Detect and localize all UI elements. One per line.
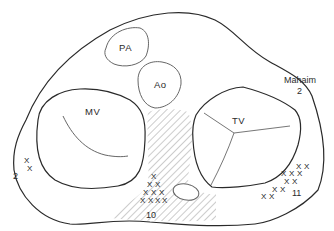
- accessory-pathway-marker: X: [304, 163, 309, 171]
- accessory-pathway-marker: X: [297, 170, 302, 178]
- accessory-pathway-marker: X: [140, 197, 145, 205]
- ao-label: Ao: [154, 80, 167, 90]
- pa-label: PA: [119, 43, 132, 53]
- septal-count: 10: [146, 211, 156, 220]
- mv-label: MV: [85, 107, 100, 117]
- mahaim-count: 2: [297, 87, 302, 96]
- right-free-wall-count: 11: [292, 189, 301, 198]
- tv-label: TV: [232, 116, 245, 126]
- accessory-pathway-marker: X: [269, 193, 274, 201]
- mv-leaflet-line: [63, 116, 128, 157]
- accessory-pathway-marker: X: [280, 186, 285, 194]
- accessory-pathway-marker: X: [148, 197, 153, 205]
- left-free-wall-count: 2: [13, 172, 18, 181]
- mahaim-label: Mahaim: [284, 76, 316, 85]
- heart-valve-diagram: PA Ao MV TV Mahaim 2 2 10 11 X X X X X X…: [0, 0, 334, 231]
- accessory-pathway-marker: X: [155, 197, 160, 205]
- tv-commissure-lines: [204, 113, 290, 185]
- accessory-pathway-marker: X: [27, 165, 32, 173]
- accessory-pathway-marker: X: [261, 193, 266, 201]
- accessory-pathway-marker: X: [292, 178, 297, 186]
- mv-outline: [37, 89, 145, 189]
- accessory-pathway-marker: X: [162, 197, 167, 205]
